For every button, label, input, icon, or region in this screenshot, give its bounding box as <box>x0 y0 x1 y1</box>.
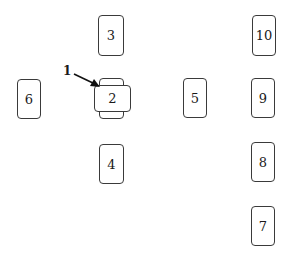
box-8: 8 <box>251 142 275 182</box>
box-6: 6 <box>17 79 41 119</box>
box-3: 3 <box>98 15 124 56</box>
box-2: 2 <box>94 85 131 112</box>
box-label: 10 <box>256 28 273 43</box>
arrow-icon <box>0 0 293 261</box>
box-4: 4 <box>99 144 124 184</box>
box-9: 9 <box>251 78 275 118</box>
box-label: 2 <box>108 91 116 106</box>
box-7: 7 <box>251 206 275 246</box>
box-label: 4 <box>107 157 115 172</box>
box-label: 8 <box>259 155 267 170</box>
callout-label: 1 <box>63 64 71 78</box>
box-label: 3 <box>107 28 115 43</box>
box-10: 10 <box>252 15 276 56</box>
box-label: 9 <box>259 91 267 106</box>
box-label: 6 <box>25 92 33 107</box>
box-label: 7 <box>259 219 267 234</box>
box-5: 5 <box>183 78 207 118</box>
box-label: 5 <box>191 91 199 106</box>
